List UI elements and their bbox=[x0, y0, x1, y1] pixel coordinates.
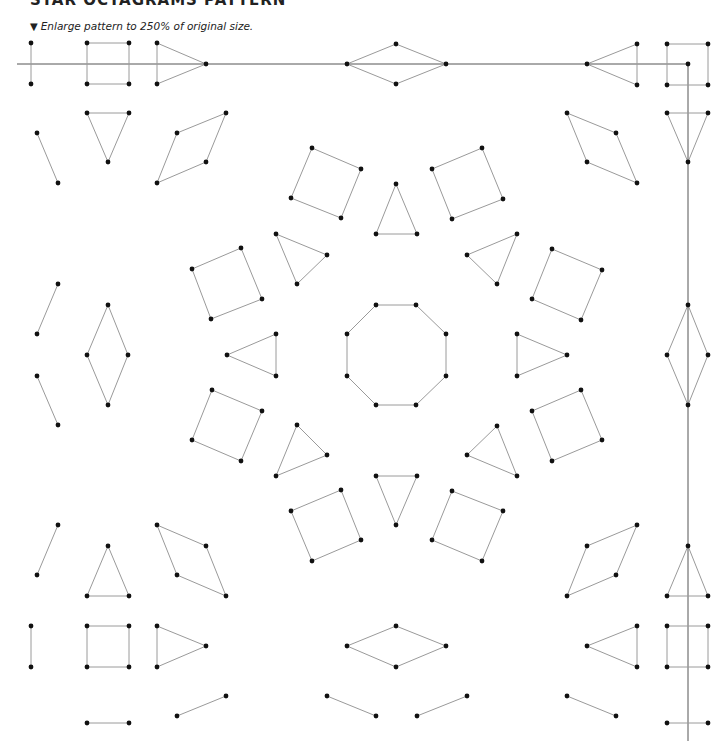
parallelogram-shape bbox=[157, 113, 226, 183]
diamond-shape bbox=[347, 626, 446, 667]
square-shape bbox=[532, 390, 602, 461]
vertex-dot bbox=[345, 332, 350, 337]
diamond-shape bbox=[87, 305, 128, 405]
vertex-dot bbox=[29, 82, 34, 87]
vertex-dot bbox=[85, 721, 90, 726]
vertex-dot bbox=[579, 388, 584, 393]
vertex-dot bbox=[430, 167, 435, 172]
vertex-dot bbox=[665, 594, 670, 599]
vertex-dot bbox=[345, 644, 350, 649]
vertex-dot bbox=[614, 714, 619, 719]
vertex-dot bbox=[325, 253, 330, 258]
segment-shape bbox=[417, 696, 467, 716]
vertex-dot bbox=[127, 624, 132, 629]
vertex-dot bbox=[515, 474, 520, 479]
vertex-dot bbox=[706, 721, 711, 726]
vertex-dot bbox=[635, 624, 640, 629]
vertex-dot bbox=[190, 438, 195, 443]
vertex-dot bbox=[444, 644, 449, 649]
segment-shape bbox=[37, 525, 58, 575]
vertex-dot bbox=[126, 353, 131, 358]
square-shape bbox=[291, 148, 361, 218]
vertex-dot bbox=[175, 714, 180, 719]
vertex-dot bbox=[127, 721, 132, 726]
vertex-dot bbox=[204, 544, 209, 549]
vertex-dot bbox=[394, 665, 399, 670]
vertex-dot bbox=[155, 665, 160, 670]
vertex-dot bbox=[530, 409, 535, 414]
vertex-dot bbox=[127, 665, 132, 670]
square-shape bbox=[192, 248, 262, 319]
vertex-dot bbox=[394, 42, 399, 47]
square-shape bbox=[432, 148, 503, 219]
vertex-dot bbox=[85, 41, 90, 46]
vertex-dot bbox=[414, 403, 419, 408]
vertex-dot bbox=[706, 665, 711, 670]
vertex-dot bbox=[565, 353, 570, 358]
vertex-dot bbox=[295, 423, 300, 428]
vertex-dot bbox=[450, 217, 455, 222]
vertex-dot bbox=[480, 559, 485, 564]
vertex-dot bbox=[394, 624, 399, 629]
vertex-dot bbox=[415, 232, 420, 237]
vertex-dot bbox=[29, 41, 34, 46]
vertex-dot bbox=[29, 624, 34, 629]
vertex-dot bbox=[224, 111, 229, 116]
triangle-shape bbox=[276, 234, 327, 284]
vertex-dot bbox=[665, 83, 670, 88]
vertex-dot bbox=[204, 644, 209, 649]
vertex-dot bbox=[635, 83, 640, 88]
triangle-shape bbox=[467, 426, 517, 476]
vertex-dot bbox=[274, 332, 279, 337]
vertex-dot bbox=[155, 82, 160, 87]
triangle-shape bbox=[87, 113, 129, 162]
vertex-dot bbox=[374, 303, 379, 308]
triangle-shape bbox=[227, 334, 276, 376]
vertex-dot bbox=[175, 131, 180, 136]
vertex-dot bbox=[289, 196, 294, 201]
vertex-dot bbox=[56, 423, 61, 428]
vertex-dot bbox=[260, 409, 265, 414]
vertex-dot bbox=[414, 303, 419, 308]
vertex-dot bbox=[155, 523, 160, 528]
vertex-dot bbox=[665, 42, 670, 47]
vertex-dot bbox=[310, 559, 315, 564]
triangle-shape bbox=[517, 334, 567, 376]
segment-shape bbox=[37, 284, 58, 334]
vertex-dot bbox=[665, 665, 670, 670]
parallelogram-shape bbox=[157, 525, 226, 596]
vertex-dot bbox=[106, 544, 111, 549]
segment-shape bbox=[37, 376, 58, 425]
vertex-dot bbox=[444, 374, 449, 379]
vertex-dot bbox=[239, 459, 244, 464]
vertex-dot bbox=[550, 459, 555, 464]
vertex-dot bbox=[635, 523, 640, 528]
vertex-dot bbox=[35, 374, 40, 379]
vertex-dot bbox=[204, 160, 209, 165]
vertex-dot bbox=[239, 246, 244, 251]
vertex-dot bbox=[374, 232, 379, 237]
vertex-dot bbox=[359, 167, 364, 172]
vertex-dot bbox=[706, 594, 711, 599]
segment-shape bbox=[567, 696, 616, 716]
vertex-dot bbox=[274, 232, 279, 237]
vertex-dot bbox=[260, 297, 265, 302]
vertex-dot bbox=[550, 247, 555, 252]
vertex-dot bbox=[106, 403, 111, 408]
vertex-dot bbox=[600, 268, 605, 273]
vertex-dot bbox=[289, 509, 294, 514]
vertex-dot bbox=[127, 594, 132, 599]
vertex-dot bbox=[190, 267, 195, 272]
vertex-dot bbox=[210, 388, 215, 393]
vertex-dot bbox=[175, 573, 180, 578]
vertex-dot bbox=[224, 594, 229, 599]
vertex-dot bbox=[155, 624, 160, 629]
vertex-dot bbox=[686, 62, 691, 67]
vertex-dot bbox=[310, 146, 315, 151]
vertex-dot bbox=[127, 41, 132, 46]
vertex-dot bbox=[614, 573, 619, 578]
vertex-dot bbox=[415, 714, 420, 719]
vertex-dot bbox=[430, 538, 435, 543]
triangle-shape bbox=[376, 184, 417, 234]
parallelogram-shape bbox=[567, 525, 637, 596]
